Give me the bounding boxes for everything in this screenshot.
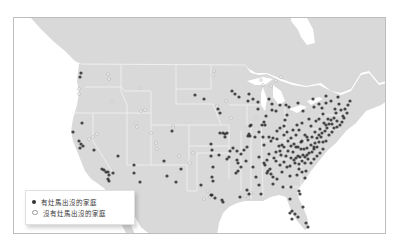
map-point-present xyxy=(132,171,135,174)
map-point-present xyxy=(332,116,335,119)
map-point-present xyxy=(317,102,320,105)
map-point-present xyxy=(291,128,294,131)
map-point-absent xyxy=(270,85,273,88)
map-point-present xyxy=(275,177,278,180)
map-point-present xyxy=(315,145,318,148)
map-point-present xyxy=(193,93,196,96)
map-point-present xyxy=(263,163,266,166)
map-point-absent xyxy=(139,87,142,90)
map-point-present xyxy=(257,130,260,133)
map-point-present xyxy=(293,212,296,215)
map-point-present xyxy=(211,165,214,168)
map-point-absent xyxy=(78,93,81,96)
map-point-present xyxy=(346,103,349,106)
map-point-present xyxy=(278,163,281,166)
map-point-present xyxy=(345,111,348,114)
map-point-present xyxy=(174,180,177,183)
map-point-present xyxy=(272,156,275,159)
map-point-present xyxy=(247,92,250,95)
map-point-present xyxy=(261,135,264,138)
map-point-present xyxy=(300,121,303,124)
map-point-present xyxy=(296,101,299,104)
map-point-present xyxy=(233,92,236,95)
map-point-present xyxy=(309,161,312,164)
map-point-absent xyxy=(88,138,91,141)
map-point-present xyxy=(239,152,242,155)
map-point-absent xyxy=(107,73,110,76)
map-point-present xyxy=(329,99,332,102)
map-point-present xyxy=(275,137,278,140)
map-point-present xyxy=(259,192,262,195)
map-point-present xyxy=(297,128,300,131)
map-point-present xyxy=(282,160,285,163)
map-point-absent xyxy=(108,78,111,81)
map-point-present xyxy=(318,127,321,130)
map-point-present xyxy=(339,108,342,111)
map-point-present xyxy=(288,164,291,167)
map-point-present xyxy=(297,189,300,192)
map-point-absent xyxy=(275,80,278,83)
map-point-present xyxy=(315,136,318,139)
map-point-present xyxy=(314,119,317,122)
map-point-absent xyxy=(136,126,139,129)
map-point-present xyxy=(218,131,221,134)
map-point-present xyxy=(324,101,327,104)
map-point-present xyxy=(256,107,259,110)
map-point-present xyxy=(313,141,316,144)
map-point-present xyxy=(340,120,343,123)
map-point-present xyxy=(111,171,114,174)
map-point-present xyxy=(330,122,333,125)
map-point-present xyxy=(107,179,110,182)
map-point-absent xyxy=(111,100,114,103)
map-point-present xyxy=(162,159,165,162)
map-point-present xyxy=(138,180,141,183)
map-point-present xyxy=(239,165,242,168)
map-point-present xyxy=(216,107,219,110)
map-point-present xyxy=(231,146,234,149)
map-point-absent xyxy=(207,190,210,193)
map-point-present xyxy=(286,139,289,142)
map-point-present xyxy=(286,149,289,152)
map-point-present xyxy=(297,167,300,170)
map-point-present xyxy=(348,99,351,102)
map-point-present xyxy=(221,200,224,203)
map-point-present xyxy=(282,145,285,148)
map-point-present xyxy=(320,106,323,109)
map-point-present xyxy=(301,205,304,208)
map-point-present xyxy=(303,176,306,179)
map-point-present xyxy=(257,183,260,186)
map-point-present xyxy=(209,193,212,196)
map-point-present xyxy=(217,153,220,156)
map-point-present xyxy=(165,174,168,177)
map-point-present xyxy=(289,136,292,139)
map-point-present xyxy=(325,126,328,129)
map-point-present xyxy=(309,124,312,127)
map-point-present xyxy=(80,121,83,124)
map-point-present xyxy=(327,122,330,125)
map-point-present xyxy=(324,139,327,142)
map-point-present xyxy=(248,124,251,127)
map-point-present xyxy=(270,108,273,111)
map-point-present xyxy=(285,130,288,133)
legend-item-present: 有灶馬出沒的家庭 xyxy=(32,196,134,207)
map-point-absent xyxy=(280,76,283,79)
map-point-present xyxy=(254,175,257,178)
map-point-present xyxy=(288,197,291,200)
map-point-present xyxy=(271,175,274,178)
map-point-absent xyxy=(155,142,158,145)
map-point-present xyxy=(326,117,329,120)
map-point-absent xyxy=(78,88,81,91)
map-point-present xyxy=(281,185,284,188)
map-point-present xyxy=(278,149,281,152)
map-point-present xyxy=(269,172,272,175)
map-point-absent xyxy=(156,148,159,151)
map-point-present xyxy=(288,174,291,177)
map-point-present xyxy=(282,133,285,136)
map-point-absent xyxy=(92,136,95,139)
map-point-present xyxy=(279,153,282,156)
map-point-present xyxy=(301,153,304,156)
filled-dot-icon xyxy=(32,200,36,204)
map-point-present xyxy=(251,165,254,168)
map-point-present xyxy=(256,100,259,103)
map-point-present xyxy=(238,195,241,198)
